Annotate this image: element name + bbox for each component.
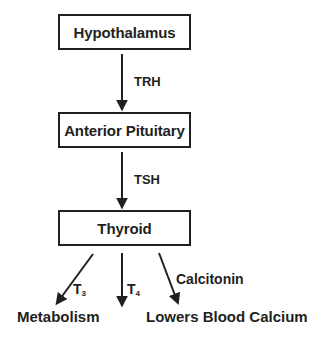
node-thyroid-label: Thyroid: [97, 220, 151, 237]
diagram-arrow-layer: [0, 0, 313, 339]
node-anterior-pituitary: Anterior Pituitary: [58, 112, 191, 148]
node-hypothalamus-label: Hypothalamus: [73, 24, 175, 41]
outcome-label-metabolism: Metabolism: [17, 308, 100, 325]
edge-label-t3-symbol: T: [73, 281, 82, 297]
edge-label-calcitonin: Calcitonin: [176, 271, 244, 287]
edge-label-t3: T3: [73, 281, 86, 297]
outcome-label-lowers-blood-calcium: Lowers Blood Calcium: [146, 308, 308, 325]
edge-label-t4-subscript: 4: [136, 289, 140, 298]
node-hypothalamus: Hypothalamus: [58, 14, 191, 50]
node-thyroid: Thyroid: [58, 210, 191, 246]
arrow-thyroid-to-lowers-blood-calcium: [159, 253, 176, 298]
edge-label-trh: TRH: [134, 74, 161, 89]
edge-label-t4-symbol: T: [127, 281, 136, 297]
edge-label-t3-subscript: 3: [82, 289, 86, 298]
edge-label-tsh: TSH: [134, 172, 160, 187]
node-anterior-pituitary-label: Anterior Pituitary: [64, 122, 185, 139]
edge-label-t4: T4: [127, 281, 140, 297]
